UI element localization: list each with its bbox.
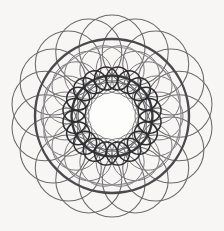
center-disc [84, 88, 140, 144]
mandala-drawing: Circular Rosette Mandala Symmetric roset… [0, 0, 224, 231]
artwork-canvas: Circular Rosette Mandala Symmetric roset… [0, 0, 224, 231]
